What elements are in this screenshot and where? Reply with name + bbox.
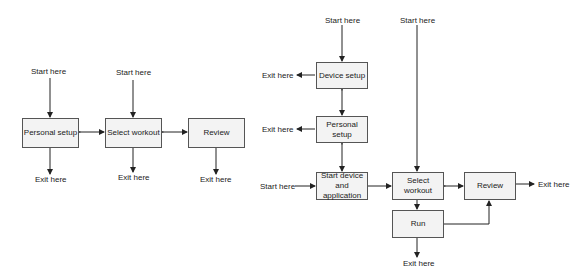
node-run: Run (392, 210, 444, 238)
exit-label: Exit here (35, 175, 67, 184)
node-review: Review (188, 118, 245, 148)
exit-label: Exit here (403, 259, 435, 268)
node-device-setup: Device setup (316, 62, 368, 89)
node-review: Review (464, 172, 516, 200)
start-label: Start here (325, 16, 360, 25)
start-label: Start here (260, 182, 295, 191)
node-personal-setup: Personal setup (316, 116, 368, 143)
exit-label: Exit here (118, 173, 150, 182)
node-select-workout: Select workout (105, 118, 162, 148)
node-start-device: Start device and application (316, 172, 368, 200)
connectors (0, 0, 588, 280)
exit-label: Exit here (262, 125, 294, 134)
node-select-workout: Select workout (392, 172, 444, 200)
node-personal-setup: Personal setup (22, 118, 79, 148)
start-label: Start here (400, 16, 435, 25)
exit-label: Exit here (262, 71, 294, 80)
exit-label: Exit here (200, 175, 232, 184)
start-label: Start here (31, 67, 66, 76)
exit-label: Exit here (538, 180, 570, 189)
start-label: Start here (116, 68, 151, 77)
